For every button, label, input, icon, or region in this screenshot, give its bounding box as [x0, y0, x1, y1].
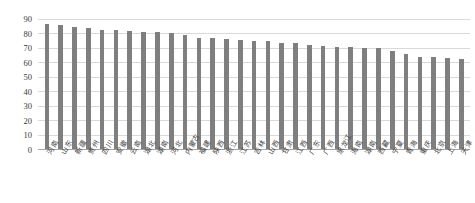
y-tick-label: 60: [24, 58, 33, 67]
x-label-slot: 甘肃: [275, 151, 289, 203]
bar[interactable]: [404, 54, 409, 149]
bar[interactable]: [155, 32, 160, 149]
bar[interactable]: [114, 30, 119, 149]
x-label-slot: 内蒙古: [178, 151, 192, 203]
bar[interactable]: [58, 25, 63, 149]
bar-slot: [372, 19, 386, 149]
x-label-slot: 四川: [95, 151, 109, 203]
x-label-slot: 安徽: [109, 151, 123, 203]
bar-slot: [261, 19, 275, 149]
x-label-slot: 广西: [316, 151, 330, 203]
bar-slot: [68, 19, 82, 149]
bar-slot: [427, 19, 441, 149]
bar[interactable]: [100, 30, 105, 149]
bar-slot: [192, 19, 206, 149]
bar-slot: [123, 19, 137, 149]
bar-slot: [344, 19, 358, 149]
x-label-slot: 湖北: [137, 151, 151, 203]
x-label-slot: 江西: [289, 151, 303, 203]
y-tick-label: 0: [28, 146, 32, 155]
y-tick-label: 20: [24, 117, 33, 126]
x-label-slot: 云南: [123, 151, 137, 203]
x-label-slot: 广东: [302, 151, 316, 203]
bar[interactable]: [169, 33, 174, 149]
y-tick-label: 50: [24, 73, 33, 82]
y-axis: 0102030405060708090: [0, 19, 36, 150]
x-label-slot: 重庆: [413, 151, 427, 203]
bar[interactable]: [266, 41, 271, 149]
x-label-slot: 吉林: [247, 151, 261, 203]
bar-slot: [275, 19, 289, 149]
x-label-slot: 河南: [40, 151, 54, 203]
bar[interactable]: [445, 58, 450, 149]
bar[interactable]: [141, 32, 146, 149]
x-label-slot: 新疆: [68, 151, 82, 203]
bar[interactable]: [238, 40, 243, 149]
bar[interactable]: [293, 43, 298, 149]
x-label-slot: 海南: [344, 151, 358, 203]
x-label-slot: 西藏: [372, 151, 386, 203]
bar-slot: [151, 19, 165, 149]
bar[interactable]: [279, 43, 284, 149]
x-label-slot: 福建: [192, 151, 206, 203]
bar-slot: [330, 19, 344, 149]
bar-slot: [178, 19, 192, 149]
x-label-slot: 山东: [54, 151, 68, 203]
x-label-slot: 湖南: [358, 151, 372, 203]
y-tick-label: 40: [24, 88, 33, 97]
x-label-slot: 湖南: [151, 151, 165, 203]
bar-slot: [137, 19, 151, 149]
x-label-slot: 河北: [164, 151, 178, 203]
bar-slot: [109, 19, 123, 149]
bar-slot: [247, 19, 261, 149]
bar[interactable]: [418, 57, 423, 149]
bar[interactable]: [376, 48, 381, 149]
x-label-slot: 山西: [261, 151, 275, 203]
x-label-slot: 上海: [441, 151, 455, 203]
bar-slot: [302, 19, 316, 149]
x-label-slot: 北京: [427, 151, 441, 203]
bar-slot: [413, 19, 427, 149]
bar-slot: [233, 19, 247, 149]
bar-series: [38, 19, 470, 149]
bar-slot: [441, 19, 455, 149]
y-tick-label: 90: [24, 15, 33, 24]
bar-slot: [385, 19, 399, 149]
bar[interactable]: [45, 24, 50, 149]
bar-slot: [399, 19, 413, 149]
bar[interactable]: [390, 51, 395, 149]
bar[interactable]: [210, 38, 215, 149]
bar[interactable]: [72, 27, 77, 149]
bar[interactable]: [348, 47, 353, 149]
bar[interactable]: [86, 28, 91, 149]
bar[interactable]: [307, 45, 312, 149]
bar[interactable]: [252, 41, 257, 149]
x-label-slot: 黑龙江: [330, 151, 344, 203]
bar[interactable]: [362, 48, 367, 149]
bar-slot: [206, 19, 220, 149]
x-label-slot: 江苏: [233, 151, 247, 203]
bar[interactable]: [431, 57, 436, 149]
bar[interactable]: [321, 46, 326, 149]
bar-slot: [164, 19, 178, 149]
bar-slot: [220, 19, 234, 149]
x-label-slot: 宁夏: [385, 151, 399, 203]
bar-slot: [316, 19, 330, 149]
x-label-slot: 贵州: [81, 151, 95, 203]
bar-slot: [40, 19, 54, 149]
plot-wrap: [38, 19, 470, 150]
bar-chart: 0102030405060708090 河南山东新疆贵州四川安徽云南湖北湖南河北…: [0, 0, 475, 203]
y-tick-label: 80: [24, 29, 33, 38]
bar[interactable]: [197, 38, 202, 149]
bar[interactable]: [127, 31, 132, 149]
bar[interactable]: [335, 47, 340, 149]
x-label-slot: 浙江: [220, 151, 234, 203]
x-label-slot: 天津: [454, 151, 468, 203]
bar[interactable]: [224, 39, 229, 149]
plot-area: [38, 19, 470, 150]
y-tick-label: 10: [24, 131, 33, 140]
bar[interactable]: [459, 59, 464, 149]
bar-slot: [81, 19, 95, 149]
bar-slot: [95, 19, 109, 149]
bar[interactable]: [183, 35, 188, 149]
